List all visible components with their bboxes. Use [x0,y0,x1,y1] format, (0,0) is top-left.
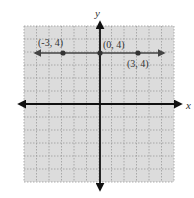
label-point-3-4: (3, 4) [127,58,149,70]
point-0-4 [97,50,102,55]
y-axis-label: y [94,7,100,19]
x-axis-label: x [185,99,191,111]
coordinate-plane: (-3, 4) (0, 4) (3, 4) y x [0,0,194,198]
point-neg3-4 [60,50,65,55]
label-point-neg3-4: (-3, 4) [38,37,63,49]
point-3-4 [135,50,140,55]
label-point-0-4: (0, 4) [103,39,125,51]
